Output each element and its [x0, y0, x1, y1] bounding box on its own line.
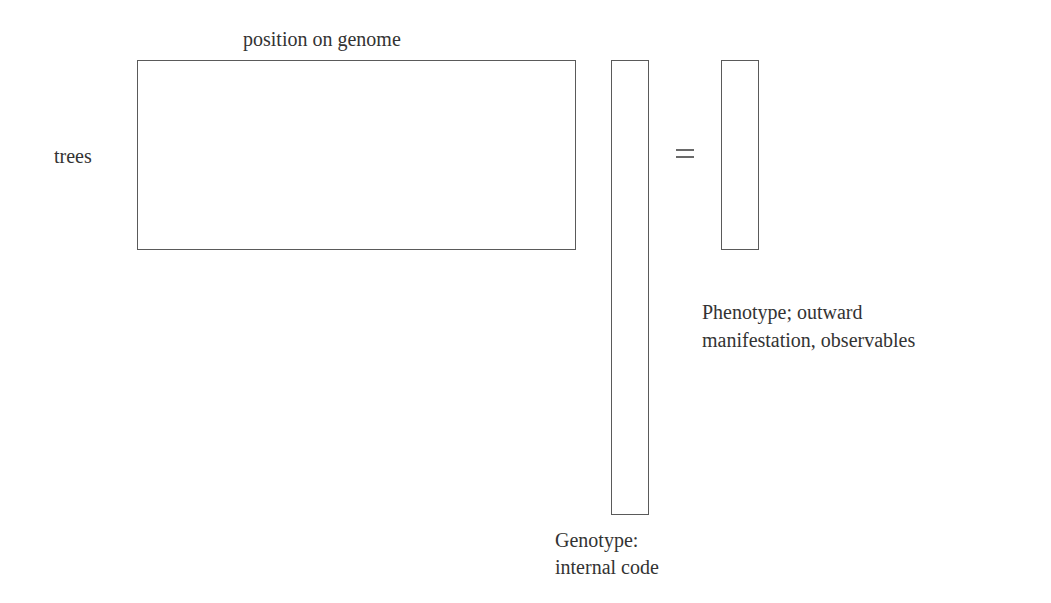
genotype-vector [611, 60, 649, 515]
equals-sign [676, 149, 694, 158]
matrix-column-label: position on genome [243, 25, 401, 53]
trees-by-position-matrix [137, 60, 576, 250]
genotype-caption-line2: internal code [555, 553, 659, 581]
phenotype-vector [721, 60, 759, 250]
phenotype-caption-line1: Phenotype; outward [702, 298, 863, 326]
genotype-caption-line1: Genotype: [555, 526, 638, 554]
phenotype-caption-line2: manifestation, observables [702, 326, 915, 354]
matrix-row-label: trees [54, 142, 92, 170]
